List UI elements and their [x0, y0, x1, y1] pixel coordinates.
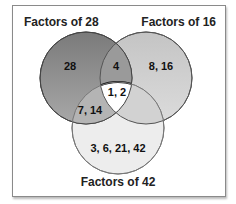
- region-all-three-label: 1, 2: [108, 86, 126, 98]
- label-factors-16: Factors of 16: [141, 15, 216, 29]
- region-only-28: 28: [64, 60, 76, 72]
- region-only-42: 3, 6, 21, 42: [90, 142, 145, 154]
- region-only-16: 8, 16: [149, 60, 173, 72]
- venn-diagram: Factors of 28 Factors of 16 Factors of 4…: [0, 0, 236, 204]
- region-28-and-16: 4: [113, 60, 120, 72]
- region-28-and-42: 7, 14: [78, 104, 103, 116]
- label-factors-28: Factors of 28: [24, 15, 99, 29]
- label-factors-42: Factors of 42: [81, 175, 156, 189]
